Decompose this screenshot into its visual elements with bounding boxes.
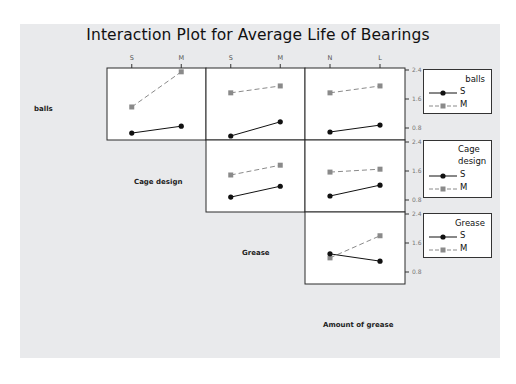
data-point bbox=[327, 193, 332, 198]
data-point bbox=[327, 251, 332, 256]
y-tick-label: 0.8 bbox=[412, 124, 422, 131]
panel-frame bbox=[305, 68, 405, 140]
legend-title: balls bbox=[465, 73, 485, 85]
panel-frame bbox=[305, 212, 405, 284]
data-point bbox=[378, 83, 383, 88]
x-tick-label: M bbox=[178, 54, 184, 62]
legend-title: Grease bbox=[455, 217, 485, 229]
legend-entry-s: S bbox=[428, 232, 488, 242]
data-point bbox=[278, 184, 283, 189]
circle-marker-icon bbox=[428, 171, 458, 181]
data-point bbox=[378, 167, 383, 172]
data-point bbox=[228, 195, 233, 200]
data-point bbox=[129, 130, 134, 135]
x-tick-label: S bbox=[229, 54, 233, 62]
legend-grease: Grease S M bbox=[423, 213, 492, 258]
y-tick-label: 0.8 bbox=[412, 268, 422, 275]
legend-title-line1: Cage bbox=[458, 143, 485, 155]
data-point bbox=[129, 104, 134, 109]
y-tick-label: 2.4 bbox=[412, 138, 422, 145]
x-tick-label: S bbox=[130, 54, 134, 62]
data-point bbox=[378, 233, 383, 238]
legend-entry-s: S bbox=[428, 88, 488, 98]
x-tick-label: L bbox=[378, 54, 382, 62]
y-tick-label: 1.6 bbox=[412, 167, 422, 174]
x-tick-label: M bbox=[277, 54, 283, 62]
legend-cage-design: Cage design S M bbox=[423, 140, 492, 198]
legend-entry-m: M bbox=[428, 101, 488, 111]
panel-frame bbox=[305, 140, 405, 212]
square-marker-icon bbox=[428, 184, 458, 194]
legend-entry-m: M bbox=[428, 184, 488, 194]
legend-title-line2: design bbox=[458, 155, 485, 167]
data-point bbox=[228, 172, 233, 177]
data-point bbox=[328, 90, 333, 95]
data-point bbox=[179, 124, 184, 129]
circle-marker-icon bbox=[428, 232, 458, 242]
panel-frame bbox=[206, 140, 305, 212]
data-point bbox=[228, 90, 233, 95]
legend-balls: balls S M bbox=[423, 69, 492, 114]
legend-entry-s: S bbox=[428, 171, 488, 181]
square-marker-icon bbox=[428, 245, 458, 255]
square-marker-icon bbox=[428, 101, 458, 111]
legend-entry-m: M bbox=[428, 245, 488, 255]
data-point bbox=[377, 123, 382, 128]
data-point bbox=[228, 133, 233, 138]
y-tick-label: 0.8 bbox=[412, 196, 422, 203]
y-tick-label: 1.6 bbox=[412, 95, 422, 102]
factor-label-amount-of-grease: Amount of grease bbox=[323, 321, 393, 329]
data-point bbox=[278, 163, 283, 168]
y-tick-label: 2.4 bbox=[412, 210, 422, 217]
x-tick-label: N bbox=[328, 54, 333, 62]
y-tick-label: 2.4 bbox=[412, 66, 422, 73]
data-point bbox=[377, 183, 382, 188]
data-point bbox=[328, 170, 333, 175]
data-point bbox=[278, 83, 283, 88]
data-point bbox=[327, 129, 332, 134]
circle-marker-icon bbox=[428, 88, 458, 98]
data-point bbox=[179, 69, 184, 74]
factor-label-grease: Grease bbox=[242, 249, 270, 257]
factor-label-cage-design: Cage design bbox=[134, 178, 182, 186]
y-tick-label: 1.6 bbox=[412, 239, 422, 246]
factor-label-balls: balls bbox=[34, 105, 53, 113]
data-point bbox=[377, 259, 382, 264]
data-point bbox=[278, 119, 283, 124]
